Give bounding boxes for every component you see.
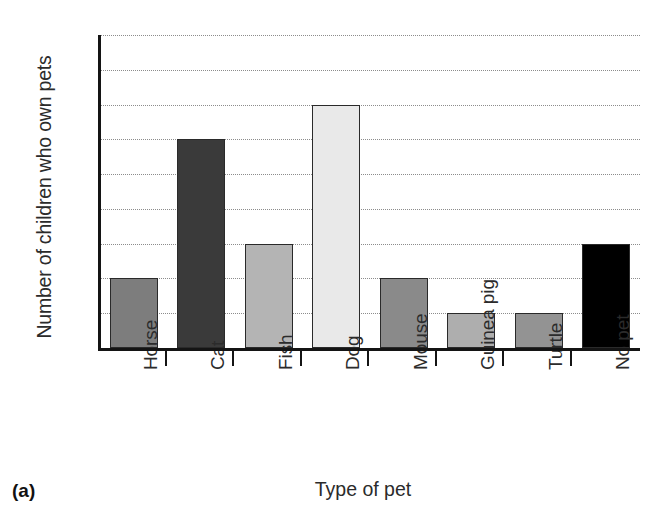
x-axis-label-mouse: Mouse — [410, 313, 432, 370]
x-axis-tick — [570, 349, 572, 366]
x-axis-line — [98, 348, 640, 351]
x-axis-label-turtle: Turtle — [545, 323, 567, 370]
x-axis-label-no-pet: No pet — [612, 315, 634, 370]
gridline — [98, 70, 640, 71]
x-axis-tick — [435, 349, 437, 366]
x-axis-tick — [300, 349, 302, 366]
x-axis-label-cat: Cat — [207, 341, 229, 370]
x-axis-title: Type of pet — [0, 478, 670, 501]
bar-chart-figure: Number of children who own pets 01234567… — [0, 0, 670, 525]
y-axis-title: Number of children who own pets — [33, 32, 63, 362]
figure-caption: (a) — [12, 480, 35, 502]
bar-cat — [177, 139, 225, 348]
x-axis-label-horse: Horse — [140, 320, 162, 370]
bar-dog — [312, 105, 360, 348]
gridline — [98, 105, 640, 106]
x-axis-label-fish: Fish — [275, 335, 297, 371]
x-axis-tick — [502, 349, 504, 366]
gridline — [98, 35, 640, 36]
plot-area: 0123456789 HorseCatFishDogMouseGuinea pi… — [98, 35, 640, 348]
x-axis-tick — [367, 349, 369, 366]
y-axis-line — [98, 35, 101, 350]
x-axis-label-guinea-pig: Guinea pig — [477, 279, 499, 370]
x-axis-tick — [232, 349, 234, 366]
x-axis-tick — [165, 349, 167, 366]
bar-fish — [245, 244, 293, 348]
x-axis-label-dog: Dog — [342, 335, 364, 370]
